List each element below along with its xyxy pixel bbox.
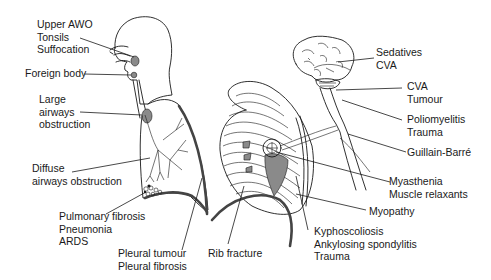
brain-illustration [280, 36, 370, 190]
label-line: Foreign body [25, 67, 86, 80]
label-line: Rib fracture [208, 247, 262, 260]
label-spine: Kyphoscoliosis Ankylosing spondylitis Tr… [314, 225, 417, 263]
label-line: Poliomyelitis [407, 113, 465, 126]
label-line: CVA [407, 80, 443, 93]
rib-cage-illustration [212, 81, 314, 246]
label-line: airways obstruction [32, 175, 122, 188]
label-line: Ankylosing spondylitis [314, 238, 417, 251]
label-line: Myasthenia [389, 175, 468, 188]
label-line: Kyphoscoliosis [314, 225, 417, 238]
label-brainstem: CVA Tumour [407, 80, 443, 105]
label-large-airways: Large airways obstruction [39, 93, 90, 131]
label-line: Upper AWO [37, 18, 93, 31]
head-neck-illustration [110, 17, 172, 123]
label-pleura: Pleural tumour Pleural fibrosis [118, 247, 187, 272]
foreign-body-lesion [131, 72, 137, 78]
label-line: Sedatives [376, 46, 422, 59]
label-upper-airway: Upper AWO Tonsils Suffocation [37, 18, 93, 56]
label-line: Pleural tumour [118, 247, 187, 260]
label-line: Suffocation [37, 43, 93, 56]
label-line: Large [39, 93, 90, 106]
label-line: Tonsils [37, 31, 93, 44]
rib-fracture-lesion [243, 141, 250, 148]
label-line: Pulmonary fibrosis [59, 210, 145, 223]
label-muscle: Myopathy [369, 205, 415, 218]
label-parenchyma: Pulmonary fibrosis Pneumonia ARDS [59, 210, 145, 248]
label-line: obstruction [39, 118, 90, 131]
label-spinal-cord: Poliomyelitis Trauma [407, 113, 465, 138]
label-nerve: Guillain-Barré [407, 146, 471, 159]
label-brain: Sedatives CVA [376, 46, 422, 71]
label-line: ARDS [59, 235, 145, 248]
label-line: Tumour [407, 93, 443, 106]
label-line: Trauma [314, 250, 417, 263]
label-line: Diffuse [32, 162, 122, 175]
label-line: Pleural fibrosis [118, 260, 187, 273]
label-line: Myopathy [369, 205, 415, 218]
muscle-lesion [265, 154, 288, 196]
label-line: Guillain-Barré [407, 146, 471, 159]
label-line: CVA [376, 59, 422, 72]
label-rib: Rib fracture [208, 247, 262, 260]
label-line: Muscle relaxants [389, 188, 468, 201]
label-line: Pneumonia [59, 223, 145, 236]
label-foreign-body: Foreign body [25, 67, 86, 80]
label-nmj: Myasthenia Muscle relaxants [389, 175, 468, 200]
label-line: airways [39, 106, 90, 119]
label-line: Trauma [407, 126, 465, 139]
tonsil-lesion [131, 56, 139, 66]
label-diffuse-airways: Diffuse airways obstruction [32, 162, 122, 187]
